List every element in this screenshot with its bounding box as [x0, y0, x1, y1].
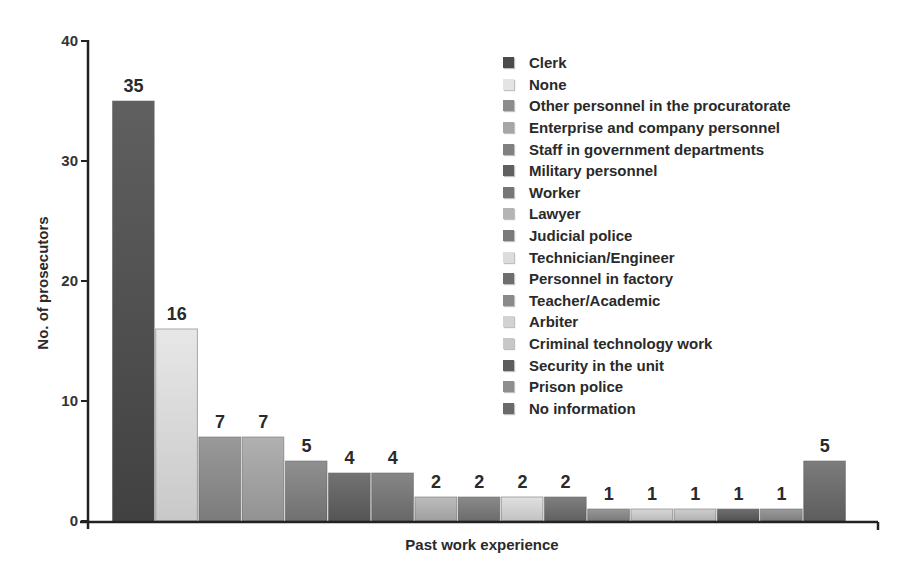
legend-swatch-icon — [503, 252, 514, 263]
y-axis-title: No. of prosecutors — [34, 216, 51, 349]
legend-item: Other personnel in the procuratorate — [503, 95, 791, 117]
legend-label: Arbiter — [529, 313, 578, 330]
bar-value-label: 2 — [431, 472, 441, 492]
legend-label: Security in the unit — [529, 357, 664, 374]
bar-teacher-academic: 1 — [588, 484, 630, 521]
legend-swatch-icon — [503, 122, 514, 133]
legend-swatch-icon — [503, 403, 514, 414]
x-axis-title: Past work experience — [405, 536, 558, 553]
legend-swatch-icon — [503, 187, 514, 198]
legend-item: Security in the unit — [503, 354, 791, 376]
y-axis: 010203040 — [61, 32, 88, 529]
bar-arbiter: 1 — [631, 484, 673, 521]
legend-label: Personnel in factory — [529, 270, 673, 287]
bar-technician-engineer: 2 — [501, 472, 543, 521]
legend-item: Arbiter — [503, 311, 791, 333]
legend-label: Worker — [529, 184, 580, 201]
bar-value-label: 2 — [474, 472, 484, 492]
legend-item: Clerk — [503, 52, 791, 74]
legend-item: Worker — [503, 182, 791, 204]
legend-swatch-icon — [503, 316, 514, 327]
legend-swatch-icon — [503, 79, 514, 90]
bar-value-label: 2 — [517, 472, 527, 492]
legend-swatch-icon — [503, 273, 514, 284]
legend-swatch-icon — [503, 360, 514, 371]
legend-label: Enterprise and company personnel — [529, 119, 780, 136]
x-axis — [80, 522, 878, 530]
legend-label: Clerk — [529, 54, 567, 71]
legend-item: Judicial police — [503, 225, 791, 247]
bar-value-label: 2 — [561, 472, 571, 492]
bar-none: 16 — [156, 304, 198, 521]
bar-enterprise-and-company-personnel: 7 — [242, 412, 284, 521]
legend-label: None — [529, 76, 567, 93]
legend-label: Teacher/Academic — [529, 292, 660, 309]
legend-swatch-icon — [503, 100, 514, 111]
y-tick-label: 10 — [61, 392, 78, 409]
bar-value-label: 16 — [167, 304, 187, 324]
bar-staff-in-government-departments: 5 — [285, 436, 327, 521]
legend-swatch-icon — [503, 295, 514, 306]
bar-value-label: 5 — [820, 436, 830, 456]
bar-worker: 4 — [372, 448, 414, 521]
bar-value-label: 7 — [215, 412, 225, 432]
legend-label: Technician/Engineer — [529, 249, 675, 266]
legend-label: No information — [529, 400, 636, 417]
bar-value-label: 4 — [388, 448, 398, 468]
legend-swatch-icon — [503, 144, 514, 155]
legend-item: None — [503, 74, 791, 96]
y-tick-label: 30 — [61, 152, 78, 169]
bar-value-label: 4 — [345, 448, 355, 468]
legend-label: Lawyer — [529, 205, 581, 222]
y-tick-label: 20 — [61, 272, 78, 289]
legend-swatch-icon — [503, 208, 514, 219]
legend-swatch-icon — [503, 57, 514, 68]
legend-swatch-icon — [503, 338, 514, 349]
bar-value-label: 1 — [647, 484, 657, 504]
legend-label: Prison police — [529, 378, 623, 395]
legend-item: Criminal technology work — [503, 333, 791, 355]
bar-other-personnel-in-the-procuratorate: 7 — [199, 412, 241, 521]
legend-item: Enterprise and company personnel — [503, 117, 791, 139]
legend-label: Military personnel — [529, 162, 657, 179]
legend-label: Judicial police — [529, 227, 632, 244]
bar-military-personnel: 4 — [329, 448, 371, 521]
legend-swatch-icon — [503, 381, 514, 392]
bar-value-label: 5 — [301, 436, 311, 456]
legend-item: No information — [503, 398, 791, 420]
legend-swatch-icon — [503, 165, 514, 176]
legend-label: Other personnel in the procuratorate — [529, 97, 791, 114]
legend-item: Teacher/Academic — [503, 290, 791, 312]
bar-value-label: 35 — [124, 76, 144, 96]
legend-label: Staff in government departments — [529, 141, 764, 158]
legend-item: Military personnel — [503, 160, 791, 182]
bar-personnel-in-factory: 2 — [545, 472, 587, 521]
bar-judicial-police: 2 — [458, 472, 500, 521]
bar-criminal-technology-work: 1 — [674, 484, 716, 521]
legend-swatch-icon — [503, 230, 514, 241]
y-tick-label: 0 — [70, 512, 78, 529]
bar-clerk: 35 — [113, 76, 155, 521]
legend-item: Personnel in factory — [503, 268, 791, 290]
legend-item: Lawyer — [503, 203, 791, 225]
bar-value-label: 1 — [777, 484, 787, 504]
legend-item: Technician/Engineer — [503, 246, 791, 268]
y-tick-label: 40 — [61, 32, 78, 49]
bar-value-label: 1 — [733, 484, 743, 504]
bar-value-label: 1 — [690, 484, 700, 504]
legend-label: Criminal technology work — [529, 335, 712, 352]
legend-item: Staff in government departments — [503, 138, 791, 160]
bar-no-information: 5 — [804, 436, 846, 521]
bar-security-in-the-unit: 1 — [717, 484, 759, 521]
legend: ClerkNoneOther personnel in the procurat… — [503, 52, 791, 419]
bar-value-label: 1 — [604, 484, 614, 504]
bar-value-label: 7 — [258, 412, 268, 432]
legend-item: Prison police — [503, 376, 791, 398]
bar-lawyer: 2 — [415, 472, 457, 521]
bar-prison-police: 1 — [761, 484, 803, 521]
